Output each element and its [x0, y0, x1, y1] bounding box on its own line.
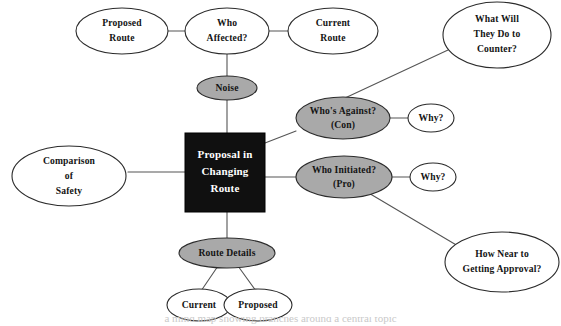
node-central-topic[interactable]: Proposal in Changing Route: [185, 133, 265, 212]
node-central-topic-label-2: Changing: [201, 165, 248, 177]
node-why-pro-label: Why?: [420, 171, 445, 182]
node-noise-label: Noise: [215, 82, 239, 93]
node-why-con-label: Why?: [418, 112, 443, 123]
mind-map-diagram: Proposed Route Who Affected? Current Rou…: [0, 0, 561, 326]
node-current-route-label-1: Current: [316, 17, 351, 28]
edge-route-details-to-proposed: [238, 266, 256, 291]
node-comparison-of-safety-label-1: Comparison: [43, 155, 96, 166]
node-comparison-of-safety-label-2: of: [65, 170, 74, 181]
node-how-near-to-getting-approval-shape[interactable]: [445, 232, 559, 292]
node-proposed-route-label-2: Route: [109, 32, 135, 43]
node-whos-against-con-label-1: Who's Against?: [310, 105, 376, 116]
node-whos-against-con-label-2: (Con): [331, 119, 355, 131]
node-who-initiated-pro-shape[interactable]: [296, 156, 392, 198]
node-proposed-route[interactable]: Proposed Route: [76, 8, 168, 54]
node-who-initiated-pro[interactable]: Who Initiated? (Pro): [296, 156, 392, 198]
cropped-caption-text: a mind map showing branches around a cen…: [0, 317, 561, 324]
node-what-will-they-do-to-counter-label-2: They Do to: [474, 28, 521, 39]
node-current-route-label-2: Route: [320, 32, 346, 43]
node-current-route-shape[interactable]: [288, 8, 378, 54]
node-proposed-route-label-1: Proposed: [102, 17, 142, 28]
node-what-will-they-do-to-counter-label-1: What Will: [475, 13, 519, 24]
edge-center-to-whos-against: [265, 131, 296, 143]
mind-map-canvas: Proposed Route Who Affected? Current Rou…: [0, 0, 561, 326]
edge-route-details-to-current: [201, 266, 218, 291]
node-route-current-label: Current: [182, 299, 217, 310]
node-whos-against-con-shape[interactable]: [296, 97, 390, 139]
node-who-affected-label-1: Who: [217, 17, 237, 28]
node-who-affected[interactable]: Who Affected?: [185, 8, 269, 54]
node-route-details-label: Route Details: [198, 247, 255, 258]
node-current-route[interactable]: Current Route: [288, 8, 378, 54]
node-whos-against-con[interactable]: Who's Against? (Con): [296, 97, 390, 139]
node-noise[interactable]: Noise: [197, 76, 257, 100]
node-what-will-they-do-to-counter-label-3: Counter?: [477, 43, 517, 54]
node-how-near-to-getting-approval-label-1: How Near to: [475, 248, 529, 259]
node-what-will-they-do-to-counter[interactable]: What Will They Do to Counter?: [443, 2, 551, 68]
node-central-topic-label-1: Proposal in: [198, 148, 253, 160]
cropped-caption: a mind map showing branches around a cen…: [0, 317, 561, 326]
node-why-con[interactable]: Why?: [408, 104, 454, 132]
node-how-near-to-getting-approval[interactable]: How Near to Getting Approval?: [445, 232, 559, 292]
node-why-pro[interactable]: Why?: [410, 163, 456, 191]
node-comparison-of-safety-label-3: Safety: [56, 185, 83, 196]
edge-who-initiated-to-how-near-approval: [367, 192, 458, 246]
node-route-details[interactable]: Route Details: [179, 238, 275, 268]
node-route-proposed-label: Proposed: [238, 299, 278, 310]
edge-group: [128, 31, 458, 291]
node-comparison-of-safety[interactable]: Comparison of Safety: [12, 146, 126, 206]
node-who-initiated-pro-label-2: (Pro): [333, 178, 355, 190]
node-central-topic-label-3: Route: [211, 182, 240, 194]
node-who-affected-shape[interactable]: [185, 8, 269, 54]
node-how-near-to-getting-approval-label-2: Getting Approval?: [463, 263, 542, 274]
edge-whos-against-to-what-will-they-do: [345, 50, 448, 98]
node-proposed-route-shape[interactable]: [76, 8, 168, 54]
node-who-affected-label-2: Affected?: [207, 32, 248, 43]
node-who-initiated-pro-label-1: Who Initiated?: [312, 164, 376, 175]
